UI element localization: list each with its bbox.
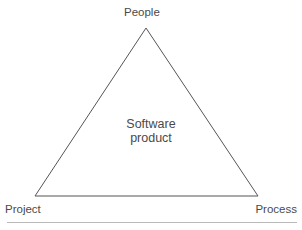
- vertex-label-people: People: [124, 6, 160, 19]
- center-label-line-2: product: [0, 131, 302, 145]
- vertex-label-project: Project: [5, 203, 41, 216]
- bottom-divider-rule: [7, 222, 297, 223]
- triangle-outline: [35, 28, 258, 196]
- center-label-line-1: Software: [0, 117, 302, 131]
- diagram-canvas: People Software product Project Process: [0, 0, 302, 230]
- triangle-shape: [0, 0, 302, 230]
- vertex-label-process: Process: [255, 203, 297, 216]
- center-label-software-product: Software product: [0, 117, 302, 146]
